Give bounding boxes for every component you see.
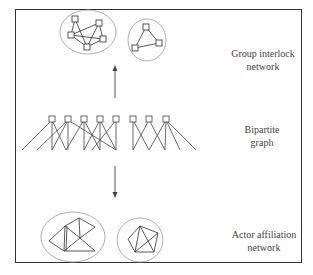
group-interlock-component-2 (128, 19, 166, 61)
label-line-2: graph (222, 136, 302, 149)
label-line-1: Group interlock (218, 47, 308, 60)
actor-affiliation-component-2 (117, 218, 163, 262)
label-actor-affiliation-network: Actor affiliation network (222, 228, 306, 254)
arrow-up-icon (113, 65, 118, 98)
bipartite-graph (22, 116, 196, 150)
actor-affiliation-component-1 (41, 212, 105, 262)
label-line-2: network (222, 241, 306, 254)
label-group-interlock-network: Group interlock network (218, 47, 308, 73)
label-line-1: Actor affiliation (222, 228, 306, 241)
label-line-1: Bipartite (222, 123, 302, 136)
label-bipartite-graph: Bipartite graph (222, 123, 302, 149)
group-interlock-component-1 (60, 10, 116, 54)
label-line-2: network (218, 60, 308, 73)
arrow-down-icon (113, 166, 118, 198)
